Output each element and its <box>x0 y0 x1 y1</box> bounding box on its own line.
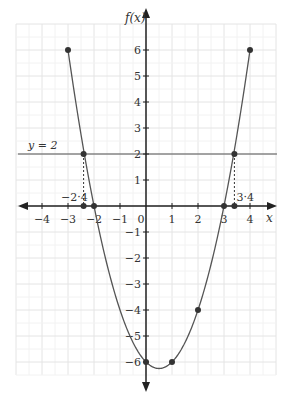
x-axis-left-arrow-icon <box>18 202 28 210</box>
y-tick-label: 2 <box>134 148 141 161</box>
data-point <box>221 203 227 209</box>
data-point <box>65 47 71 53</box>
x-tick-label: 0 <box>138 213 145 226</box>
data-point <box>91 203 97 209</box>
y-tick-label: −3 <box>125 278 141 291</box>
y-tick-label: 6 <box>134 44 141 57</box>
x-tick-label: −1 <box>112 213 128 226</box>
left-intersection-label: −2·4 <box>61 191 88 204</box>
y-tick-label: 1 <box>134 174 141 187</box>
line-label-y2: y = 2 <box>27 139 57 152</box>
x-tick-label: −3 <box>60 213 76 226</box>
intersection-point <box>81 151 87 157</box>
data-point <box>247 47 253 53</box>
data-point <box>169 359 175 365</box>
y-tick-label: −1 <box>125 226 141 239</box>
y-axis-label: f(x) <box>124 11 146 25</box>
data-point <box>143 359 149 365</box>
x-tick-label: −4 <box>34 213 50 226</box>
x-tick-label: 2 <box>195 213 202 226</box>
x-tick-label: −2 <box>86 213 102 226</box>
y-axis-down-arrow-icon <box>142 382 150 392</box>
y-tick-label: 4 <box>134 96 141 109</box>
x-axis-label: x <box>266 211 273 225</box>
y-tick-label: 5 <box>134 70 141 83</box>
function-graph: −4−3−2−101234654321−1−2−3−4−5−6f(x)xy = … <box>0 0 290 415</box>
intersection-point <box>231 151 237 157</box>
y-tick-label: −2 <box>125 252 141 265</box>
data-point <box>195 307 201 313</box>
right-intersection-label: 3·4 <box>236 191 254 204</box>
y-tick-label: 3 <box>134 122 141 135</box>
x-tick-label: 1 <box>169 213 176 226</box>
y-tick-label: −6 <box>125 356 141 369</box>
x-tick-label: 4 <box>247 213 254 226</box>
y-tick-label: −4 <box>125 304 141 317</box>
